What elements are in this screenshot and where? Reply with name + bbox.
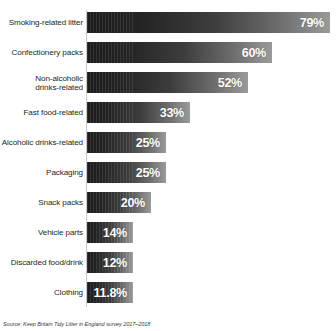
bar-row: Vehicle parts14% — [0, 222, 336, 243]
bar: 79% — [87, 12, 330, 33]
bar-row: Fast food-related33% — [0, 102, 336, 123]
bar-texture — [87, 42, 133, 63]
bar-texture — [87, 132, 133, 153]
bar-row: Smoking-related litter79% — [0, 12, 336, 33]
litter-composition-bar-chart: Smoking-related litter79%Confectionery p… — [0, 0, 336, 331]
bar-value-label: 12% — [103, 256, 133, 270]
bar-value-label: 11.8% — [93, 286, 133, 300]
bar: 12% — [87, 252, 133, 273]
bar-category-label: Non-alcoholic drinks-related — [0, 73, 83, 92]
bar: 11.8% — [87, 282, 133, 303]
bar-value-label: 60% — [242, 46, 272, 60]
bar-category-label: Fast food-related — [0, 108, 83, 117]
bar-value-label: 20% — [121, 196, 151, 210]
chart-plot-area: Smoking-related litter79%Confectionery p… — [0, 8, 336, 311]
bar-row: Non-alcoholic drinks-related52% — [0, 72, 336, 93]
bar-category-label: Snack packs — [0, 198, 83, 207]
bar-category-label: Alcoholic drinks-related — [0, 138, 83, 147]
bar-category-label: Vehicle parts — [0, 228, 83, 237]
bar-row: Discarded food/drink12% — [0, 252, 336, 273]
bar: 25% — [87, 132, 166, 153]
bar-value-label: 25% — [136, 166, 166, 180]
bar-value-label: 33% — [160, 106, 190, 120]
bar-row: Alcoholic drinks-related25% — [0, 132, 336, 153]
bar-value-label: 14% — [103, 226, 133, 240]
bar-texture — [87, 102, 133, 123]
bar-texture — [87, 162, 133, 183]
bar: 25% — [87, 162, 166, 183]
bar-category-label: Discarded food/drink — [0, 258, 83, 267]
bar-category-label: Clothing — [0, 288, 83, 297]
bar: 33% — [87, 102, 190, 123]
chart-source-note: Source: Keep Britain Tidy Litter in Engl… — [3, 321, 150, 327]
bar: 52% — [87, 72, 248, 93]
bar-row: Clothing11.8% — [0, 282, 336, 303]
bar-value-label: 79% — [300, 16, 330, 30]
bar-texture — [87, 12, 133, 33]
bar-row: Confectionery packs60% — [0, 42, 336, 63]
bar-category-label: Confectionery packs — [0, 48, 83, 57]
bar: 14% — [87, 222, 133, 243]
bar: 20% — [87, 192, 151, 213]
bar-category-label: Smoking-related litter — [0, 18, 83, 27]
bar-texture — [87, 72, 133, 93]
bar-row: Snack packs20% — [0, 192, 336, 213]
bar-row: Packaging25% — [0, 162, 336, 183]
bar-category-label: Packaging — [0, 168, 83, 177]
bar: 60% — [87, 42, 272, 63]
bar-value-label: 52% — [218, 76, 248, 90]
bar-value-label: 25% — [136, 136, 166, 150]
